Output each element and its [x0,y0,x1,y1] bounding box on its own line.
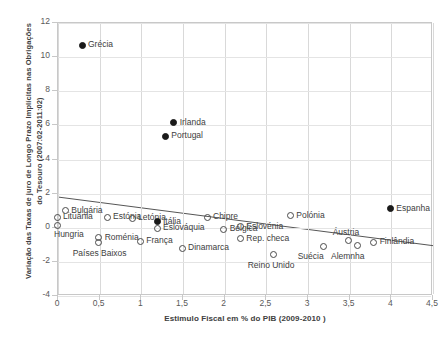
y-axis-tick-mark [52,90,57,91]
data-point-label: Irlanda [180,118,206,127]
gridline-horizontal [58,57,431,58]
x-axis-tick-mark [265,295,266,300]
data-point-marker[interactable] [62,207,69,214]
y-axis-tick-label: 12 [20,16,50,26]
data-point-marker[interactable] [79,42,86,49]
x-axis-tick-mark [57,295,58,300]
gridline-vertical [391,23,392,294]
data-point-label: Grécia [88,40,113,49]
data-point-marker[interactable] [129,215,136,222]
data-point-label: Áustria [333,228,359,237]
data-point-marker[interactable] [237,235,244,242]
y-axis-tick-label: 6 [20,118,50,128]
x-axis-tick-mark [432,295,433,300]
data-point-marker[interactable] [154,225,161,232]
data-point-label: Rep. checa [246,234,289,243]
data-point-label: Portugal [171,131,203,140]
data-point-marker[interactable] [162,133,169,140]
gridline-vertical [58,23,59,294]
x-axis-tick-mark [390,295,391,300]
gridline-vertical [266,23,267,294]
gridline-vertical [183,23,184,294]
y-axis-tick-mark [52,56,57,57]
y-axis-tick-label: 4 [20,153,50,163]
scatter-chart-figure: Variação das Taxas de juro de Longo Praz… [0,0,445,340]
gridline-horizontal [58,194,431,195]
data-point-label: Polónia [296,211,324,220]
x-axis-title: Estimulo Fiscal em % do PIB (2009-2010 ) [57,314,433,323]
y-axis-tick-mark [52,193,57,194]
x-axis-tick-mark [99,295,100,300]
gridline-horizontal [58,160,431,161]
y-axis-tick-mark [52,159,57,160]
x-axis-tick-mark [349,295,350,300]
data-point-label: Roménia [105,233,139,242]
data-point-marker[interactable] [137,238,144,245]
data-point-label: Espanha [396,204,430,213]
y-axis-tick-label: 2 [20,187,50,197]
x-axis-tick-mark [224,295,225,300]
x-axis-tick-mark [307,295,308,300]
data-point-marker[interactable] [287,212,294,219]
data-point-marker[interactable] [354,242,361,249]
x-axis-tick-mark [182,295,183,300]
gridline-horizontal [58,262,431,263]
gridline-vertical [433,23,434,294]
data-point-marker[interactable] [54,214,61,221]
y-axis-tick-mark [52,22,57,23]
y-axis-tick-label: 10 [20,50,50,60]
clipped-title-row [0,0,445,9]
y-axis-tick-mark [52,261,57,262]
gridline-vertical [225,23,226,294]
data-point-marker[interactable] [204,214,211,221]
data-point-label: Finlândia [380,237,415,246]
x-axis-tick-mark [140,295,141,300]
data-point-label: Eslovénia [246,222,283,231]
y-axis-tick-label: 0 [20,221,50,231]
data-point-label: Suécia [298,252,324,261]
x-axis-tick-label: 4,5 [414,298,445,308]
gridline-vertical [141,23,142,294]
data-point-label: Letónia [138,213,166,222]
data-point-label: Chipre [213,212,238,221]
data-point-marker[interactable] [104,214,111,221]
data-point-label: Reino Unido [248,261,295,270]
gridline-horizontal [58,125,431,126]
data-point-label: França [146,236,172,245]
data-point-marker[interactable] [345,237,352,244]
data-point-label: Países Baixos [73,249,127,258]
data-point-label: Eslováquia [163,223,205,232]
data-point-label: Bulgária [71,206,102,215]
data-point-marker[interactable] [320,243,327,250]
data-point-marker[interactable] [370,239,377,246]
data-point-label: Hungria [54,230,84,239]
y-axis-tick-mark [52,124,57,125]
gridline-horizontal [58,23,431,24]
gridline-horizontal [58,296,431,297]
data-point-marker[interactable] [179,245,186,252]
y-axis-tick-label: -2 [20,255,50,265]
gridline-horizontal [58,91,431,92]
data-point-label: Dinamarca [188,243,229,252]
data-point-marker[interactable] [220,226,227,233]
data-point-marker[interactable] [54,222,61,229]
y-axis-tick-label: 8 [20,84,50,94]
data-point-label: Alemnha [331,252,365,261]
